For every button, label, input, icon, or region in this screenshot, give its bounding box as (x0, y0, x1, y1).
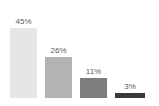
bar-value-label-2: 26% (50, 46, 66, 55)
bar-3[interactable] (80, 78, 107, 98)
bar-group-4[interactable]: 3% (115, 93, 145, 98)
bar-chart: 45% 26% 11% 3% (0, 0, 159, 106)
bar-group-3[interactable]: 11% (80, 78, 107, 98)
plot-area: 45% 26% 11% 3% (0, 0, 159, 106)
bar-value-label-3: 11% (86, 67, 101, 76)
bar-group-2[interactable]: 26% (45, 57, 72, 98)
bar-group-1[interactable]: 45% (10, 28, 37, 98)
bar-value-label-4: 3% (124, 82, 136, 91)
bar-2[interactable] (45, 57, 72, 98)
bar-value-label-1: 45% (15, 17, 31, 26)
bar-4[interactable] (115, 93, 145, 98)
bar-1[interactable] (10, 28, 37, 98)
